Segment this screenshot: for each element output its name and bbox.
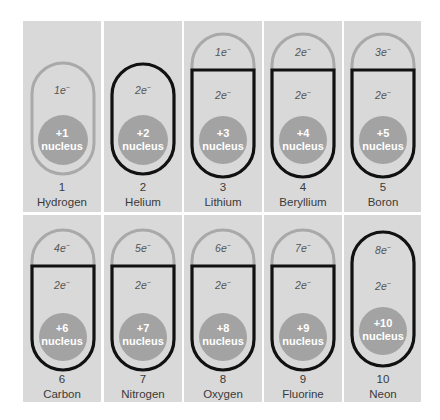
shell1-electron-count: 2e− [23,279,101,291]
nucleus-label: nucleus [184,335,262,348]
nucleus-charge: +8 [184,322,262,335]
nucleus-charge: +2 [104,127,182,140]
nucleus-charge: +3 [184,127,262,140]
element-name: Oxygen [184,388,262,400]
element-panel-nitrogen: 5e− 2e− +7 nucleus 7 Nitrogen [104,215,182,402]
element-panel-carbon: 4e− 2e− +6 nucleus 6 Carbon [23,215,101,402]
element-name: Nitrogen [104,388,182,400]
shell2-electron-count: 6e− [184,242,262,254]
atomic-number: 3 [184,181,262,193]
atomic-number: 8 [184,373,262,385]
atomic-number: 9 [264,373,342,385]
shell2-electron-count: 5e− [104,242,182,254]
element-name: Hydrogen [23,196,101,208]
shell2-electron-count: 3e− [344,46,422,58]
atomic-number: 2 [104,181,182,193]
electron-shell-diagram: 1e− +1 nucleus 1 Hydrogen 2e− +2 nucleus… [23,21,421,402]
shell1-electron-count: 2e− [104,279,182,291]
nucleus-label: nucleus [264,140,342,153]
shell1-electron-count: 2e− [344,280,422,292]
shell1-electron-count: 2e− [104,84,182,96]
nucleus-label: nucleus [264,335,342,348]
atomic-number: 4 [264,181,342,193]
nucleus-charge: +5 [344,127,422,140]
element-name: Boron [344,196,422,208]
element-panel-helium: 2e− +2 nucleus 2 Helium [104,21,182,212]
nucleus-charge: +4 [264,127,342,140]
element-panel-fluorine: 7e− 2e− +9 nucleus 9 Fluorine [264,215,342,402]
nucleus-charge: +7 [104,322,182,335]
nucleus-label: nucleus [23,335,101,348]
shell1-electron-count: 2e− [264,279,342,291]
shell1-electron-count: 2e− [264,89,342,101]
shell2-electron-count: 4e− [23,242,101,254]
shell2-electron-count: 7e− [264,242,342,254]
shell2-electron-count: 1e− [184,46,262,58]
element-name: Helium [104,196,182,208]
atomic-number: 10 [344,373,422,385]
nucleus-label: nucleus [104,335,182,348]
shell1-electron-count: 1e− [23,84,101,96]
element-panel-lithium: 1e− 2e− +3 nucleus 3 Lithium [184,21,262,212]
nucleus-label: nucleus [344,140,422,153]
element-name: Beryllium [264,196,342,208]
shell2-electron-count: 8e− [344,244,422,256]
nucleus-label: nucleus [344,330,422,343]
element-panel-boron: 3e− 2e− +5 nucleus 5 Boron [344,21,421,212]
element-name: Carbon [23,388,101,400]
shell1-electron-count: 2e− [184,279,262,291]
element-name: Lithium [184,196,262,208]
element-panel-beryllium: 2e− 2e− +4 nucleus 4 Beryllium [264,21,342,212]
shell1-electron-count: 2e− [344,89,422,101]
nucleus-charge: +1 [23,127,101,140]
element-name: Fluorine [264,388,342,400]
nucleus-charge: +6 [23,322,101,335]
atomic-number: 5 [344,181,422,193]
element-panel-oxygen: 6e− 2e− +8 nucleus 8 Oxygen [184,215,262,402]
nucleus-label: nucleus [104,140,182,153]
atomic-number: 1 [23,181,101,193]
element-panel-neon: 8e− 2e− +10 nucleus 10 Neon [344,215,421,402]
nucleus-label: nucleus [184,140,262,153]
shell1-electron-count: 2e− [184,89,262,101]
nucleus-label: nucleus [23,140,101,153]
element-name: Neon [344,388,422,400]
atomic-number: 7 [104,373,182,385]
atomic-number: 6 [23,373,101,385]
nucleus-charge: +9 [264,322,342,335]
shell2-electron-count: 2e− [264,46,342,58]
nucleus-charge: +10 [344,317,422,330]
element-panel-hydrogen: 1e− +1 nucleus 1 Hydrogen [23,21,101,212]
